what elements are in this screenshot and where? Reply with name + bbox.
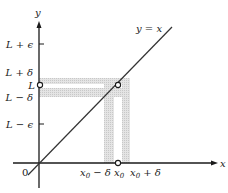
x-axis-arrow-icon xyxy=(211,161,218,166)
x-tick-label-left-delta: x0 − δ xyxy=(80,167,111,180)
hole-on-line-icon xyxy=(115,82,120,87)
hole-on-y-axis-icon xyxy=(37,82,42,87)
hole-on-x-axis-icon xyxy=(115,160,120,165)
diagram-canvas: y x 0 y = x L + ϵ L + δ L L − δ L − ϵ x0… xyxy=(0,0,228,193)
y-tick-label-upper-delta: L + δ xyxy=(5,67,33,78)
y-tick-label-lower-epsilon: L − ϵ xyxy=(5,119,33,130)
x-tick-label-right-delta: x0 + δ xyxy=(130,167,161,180)
y-tick-label-upper-epsilon: L + ϵ xyxy=(5,39,33,50)
line-y-equals-x xyxy=(28,27,172,175)
function-label: y = x xyxy=(135,23,162,34)
y-axis-arrow-icon xyxy=(37,21,42,28)
y-axis-label: y xyxy=(34,7,41,18)
y-tick-label-lower-delta: L − δ xyxy=(5,92,33,103)
x-axis-label: x xyxy=(220,158,226,169)
origin-label: 0 xyxy=(22,167,28,178)
y-tick-label-limit: L xyxy=(27,80,35,91)
x-tick-label-x0: x0 xyxy=(114,167,125,180)
